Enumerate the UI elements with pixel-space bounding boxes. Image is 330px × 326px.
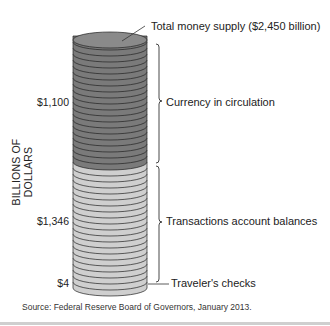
- total-label: Total money supply ($2,450 billion): [151, 20, 320, 32]
- travelers-value: $4: [29, 277, 69, 289]
- transactions-value: $1,346: [29, 215, 69, 227]
- transactions-label: Transactions account balances: [166, 215, 317, 227]
- transactions-bracket: [156, 166, 162, 282]
- coin-stack: [73, 32, 147, 296]
- bottom-rule: [0, 322, 330, 325]
- currency-value: $1,100: [29, 96, 69, 108]
- y-axis-label: BILLIONS OF DOLLARS: [10, 112, 34, 232]
- currency-label: Currency in circulation: [166, 96, 275, 108]
- source-note: Source: Federal Reserve Board of Governo…: [22, 302, 252, 312]
- currency-bracket: [156, 44, 162, 163]
- travelers-label: Traveler's checks: [171, 277, 256, 289]
